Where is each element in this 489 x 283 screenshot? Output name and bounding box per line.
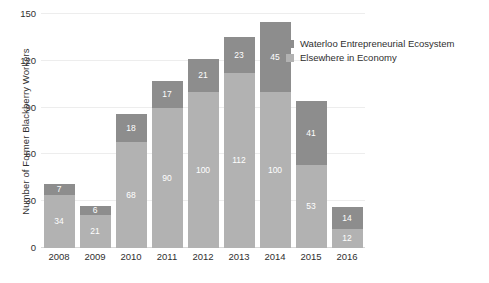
stacked-bar-chart: Number of Former Blackberry Workers 0306… bbox=[0, 0, 489, 283]
bar-segment[interactable]: 34 bbox=[44, 195, 75, 248]
x-axis-tick-label: 2010 bbox=[113, 251, 149, 262]
bar-value-label: 21 bbox=[90, 227, 99, 236]
x-axis-tick-label: 2009 bbox=[77, 251, 113, 262]
bar-segment[interactable]: 53 bbox=[296, 165, 327, 248]
y-axis-tick-label: 0 bbox=[31, 242, 36, 253]
legend-item-label: Waterloo Entrepreneurial Ecosystem bbox=[300, 38, 454, 49]
x-axis-tick-label: 2014 bbox=[257, 251, 293, 262]
bar-segment[interactable]: 7 bbox=[44, 184, 75, 195]
bar-value-label: 14 bbox=[342, 214, 351, 223]
legend-swatch-icon bbox=[286, 40, 294, 48]
bar-value-label: 6 bbox=[93, 206, 98, 215]
bar-segment[interactable]: 12 bbox=[332, 229, 363, 248]
bar-value-label: 41 bbox=[306, 129, 315, 138]
bar-column[interactable]: 23112 bbox=[221, 14, 257, 248]
bar-segment[interactable]: 21 bbox=[80, 215, 111, 248]
bar-segment[interactable]: 23 bbox=[224, 37, 255, 73]
bar-value-label: 17 bbox=[162, 90, 171, 99]
bar-value-label: 100 bbox=[196, 166, 210, 175]
legend-item-waterloo-entrepreneurial-ecosystem: Waterloo Entrepreneurial Ecosystem bbox=[286, 38, 454, 49]
x-axis-tick-label: 2008 bbox=[41, 251, 77, 262]
bar-value-label: 18 bbox=[126, 124, 135, 133]
y-axis-tick-label: 90 bbox=[25, 101, 36, 112]
bar-column[interactable]: 1790 bbox=[149, 14, 185, 248]
legend-swatch-icon bbox=[286, 54, 294, 62]
bar-value-label: 53 bbox=[306, 202, 315, 211]
bar-value-label: 68 bbox=[126, 191, 135, 200]
x-axis-tick-label: 2012 bbox=[185, 251, 221, 262]
bar-segment[interactable]: 14 bbox=[332, 207, 363, 229]
bar-value-label: 12 bbox=[342, 234, 351, 243]
bar-segment[interactable]: 21 bbox=[188, 59, 219, 92]
bar-value-label: 100 bbox=[268, 166, 282, 175]
bar-segment[interactable]: 90 bbox=[152, 108, 183, 248]
legend-item-elsewhere-in-economy: Elsewhere in Economy bbox=[286, 52, 454, 63]
bar-value-label: 112 bbox=[232, 156, 246, 165]
bar-column[interactable]: 21100 bbox=[185, 14, 221, 248]
x-axis-tick-label: 2013 bbox=[221, 251, 257, 262]
bar-value-label: 45 bbox=[270, 53, 279, 62]
bar-segment[interactable]: 68 bbox=[116, 142, 147, 248]
bar-value-label: 34 bbox=[54, 217, 63, 226]
bar-value-label: 21 bbox=[198, 71, 207, 80]
legend-item-label: Elsewhere in Economy bbox=[300, 52, 397, 63]
legend: Waterloo Entrepreneurial Ecosystem Elsew… bbox=[286, 38, 454, 66]
bar-value-label: 90 bbox=[162, 174, 171, 183]
x-axis: 200820092010201120122013201420152016 bbox=[41, 251, 365, 262]
bar-segment[interactable]: 112 bbox=[224, 73, 255, 248]
bar-column[interactable]: 621 bbox=[77, 14, 113, 248]
bar-column[interactable]: 1868 bbox=[113, 14, 149, 248]
bar-column[interactable]: 734 bbox=[41, 14, 77, 248]
x-axis-tick-label: 2016 bbox=[329, 251, 365, 262]
bar-segment[interactable]: 100 bbox=[260, 92, 291, 248]
y-axis-tick-label: 150 bbox=[20, 8, 36, 19]
x-axis-tick-label: 2015 bbox=[293, 251, 329, 262]
bar-value-label: 7 bbox=[57, 185, 62, 194]
y-axis-tick-label: 30 bbox=[25, 195, 36, 206]
bar-value-label: 23 bbox=[234, 51, 243, 60]
bar-segment[interactable]: 18 bbox=[116, 114, 147, 142]
bar-segment[interactable]: 100 bbox=[188, 92, 219, 248]
bar-segment[interactable]: 41 bbox=[296, 101, 327, 165]
bar-segment[interactable]: 6 bbox=[80, 206, 111, 215]
x-axis-tick-label: 2011 bbox=[149, 251, 185, 262]
bar-segment[interactable]: 17 bbox=[152, 81, 183, 108]
y-axis-tick-label: 120 bbox=[20, 54, 36, 65]
y-axis-tick-label: 60 bbox=[25, 148, 36, 159]
